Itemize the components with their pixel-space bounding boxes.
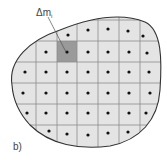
- mass-point-dot: [86, 133, 89, 136]
- mass-point-dot: [86, 50, 89, 53]
- mass-point-dot: [148, 91, 151, 94]
- mass-point-dot: [106, 50, 109, 53]
- mass-element-label: Δmi: [36, 7, 52, 19]
- mass-point-dot: [65, 70, 68, 73]
- mass-point-dot: [127, 111, 130, 114]
- mass-point-dot: [127, 91, 130, 94]
- mass-point-dot: [44, 70, 47, 73]
- mass-point-dot: [65, 91, 68, 94]
- mass-point-dot: [106, 70, 109, 73]
- mass-distribution-diagram: Δmi b): [0, 0, 167, 161]
- mass-point-dot: [147, 70, 150, 73]
- mass-point-dot: [145, 51, 148, 54]
- mass-point-dot: [126, 29, 129, 32]
- mass-point-dot: [106, 27, 109, 30]
- mass-point-dot: [86, 70, 89, 73]
- mass-point-dot: [65, 111, 68, 114]
- mass-point-dot: [21, 91, 24, 94]
- mass-point-dot: [106, 131, 109, 134]
- mass-point-dot: [144, 111, 147, 114]
- mass-point-dot: [86, 28, 89, 31]
- mass-point-dot: [47, 129, 50, 132]
- mass-point-dot: [44, 50, 47, 53]
- mass-point-dot: [65, 132, 68, 135]
- panel-label: b): [13, 141, 22, 152]
- mass-point-dot: [106, 111, 109, 114]
- mass-point-dot: [86, 91, 89, 94]
- mass-point-dot: [86, 111, 89, 114]
- mass-point-dot: [126, 130, 129, 133]
- mass-point-dot: [44, 111, 47, 114]
- mass-point-dot: [141, 34, 144, 37]
- mass-point-dot: [25, 111, 28, 114]
- mass-point-dot: [66, 33, 69, 36]
- body-shape: [12, 17, 161, 147]
- mass-point-dot: [106, 91, 109, 94]
- mass-point-dot: [23, 70, 26, 73]
- mass-point-dot: [44, 91, 47, 94]
- mass-point-dot: [127, 50, 130, 53]
- mass-point-dot: [127, 70, 130, 73]
